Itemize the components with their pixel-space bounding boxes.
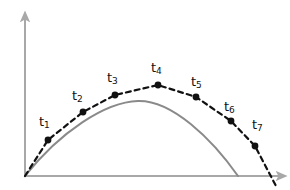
point-label-subscript: 3 xyxy=(112,76,118,86)
point-label-subscript: 2 xyxy=(77,94,83,104)
point-label-subscript: 1 xyxy=(44,120,50,130)
point-label-t3: t3 xyxy=(107,71,118,84)
data-point-t3 xyxy=(112,92,119,99)
data-point-t1 xyxy=(45,137,52,144)
data-point-t2 xyxy=(80,109,87,116)
point-label-t4: t4 xyxy=(151,61,162,74)
data-point-t5 xyxy=(193,94,200,101)
sampled-trajectory-curve xyxy=(25,85,276,186)
point-label-t2: t2 xyxy=(72,89,83,102)
figure-canvas xyxy=(0,0,290,190)
point-label-t7: t7 xyxy=(252,118,263,131)
point-label-t5: t5 xyxy=(191,75,202,88)
axes-group xyxy=(25,16,282,176)
data-point-t7 xyxy=(252,143,259,150)
point-label-subscript: 4 xyxy=(156,66,162,76)
data-point-t6 xyxy=(228,118,235,125)
point-label-subscript: 6 xyxy=(229,105,235,115)
point-label-t1: t1 xyxy=(39,115,50,128)
point-label-t6: t6 xyxy=(224,100,235,113)
ideal-parabola-curve xyxy=(25,101,238,176)
point-label-subscript: 7 xyxy=(257,123,263,133)
trajectory-figure: t1t2t3t4t5t6t7 xyxy=(0,0,290,190)
point-label-subscript: 5 xyxy=(196,80,202,90)
data-point-t4 xyxy=(155,82,162,89)
